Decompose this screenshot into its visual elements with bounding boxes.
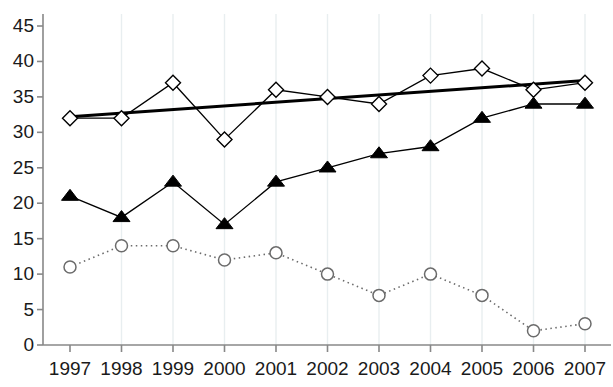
chart-plot-area xyxy=(0,0,613,387)
marker-diamond-2005 xyxy=(475,61,490,76)
marker-diamond-1997 xyxy=(63,111,78,126)
x-tick-label-1999: 1999 xyxy=(145,359,201,378)
marker-circle-2003 xyxy=(373,289,385,301)
y-tick-label-30: 30 xyxy=(0,122,34,141)
x-tick-label-1997: 1997 xyxy=(42,359,98,378)
y-tick-label-10: 10 xyxy=(0,264,34,283)
x-tick-label-2005: 2005 xyxy=(454,359,510,378)
chart-container: 051015202530354045 199719981999200020012… xyxy=(0,0,613,387)
marker-circle-2000 xyxy=(219,254,231,266)
y-tick-label-40: 40 xyxy=(0,51,34,70)
marker-triangle-2004 xyxy=(422,140,439,151)
x-tick-label-2004: 2004 xyxy=(403,359,459,378)
marker-triangle-1998 xyxy=(113,211,130,222)
y-tick-label-5: 5 xyxy=(0,300,34,319)
axes-group xyxy=(37,14,611,352)
x-tick-label-2007: 2007 xyxy=(557,359,613,378)
marker-circle-2006 xyxy=(528,325,540,337)
marker-triangle-1999 xyxy=(165,175,182,186)
marker-circle-2001 xyxy=(270,247,282,259)
marker-triangle-2006 xyxy=(525,97,542,108)
x-tick-label-2001: 2001 xyxy=(248,359,304,378)
marker-circle-1997 xyxy=(64,261,76,273)
x-tick-label-2002: 2002 xyxy=(300,359,356,378)
marker-circle-2007 xyxy=(579,318,591,330)
x-tick-label-1998: 1998 xyxy=(94,359,150,378)
x-tick-label-2006: 2006 xyxy=(506,359,562,378)
y-tick-label-0: 0 xyxy=(0,335,34,354)
y-tick-label-15: 15 xyxy=(0,229,34,248)
marker-circle-2002 xyxy=(322,268,334,280)
marker-circle-1999 xyxy=(167,240,179,252)
y-tick-label-35: 35 xyxy=(0,87,34,106)
x-tick-label-2000: 2000 xyxy=(197,359,253,378)
marker-diamond-2002 xyxy=(320,89,335,104)
y-tick-label-20: 20 xyxy=(0,193,34,212)
x-tick-label-2003: 2003 xyxy=(351,359,407,378)
marker-triangle-2007 xyxy=(577,97,594,108)
gridlines-group xyxy=(122,14,586,345)
y-tick-label-45: 45 xyxy=(0,16,34,35)
marker-triangle-1997 xyxy=(62,189,79,200)
marker-diamond-2007 xyxy=(578,75,593,90)
y-tick-label-25: 25 xyxy=(0,158,34,177)
marker-circle-2004 xyxy=(425,268,437,280)
marker-diamond-2003 xyxy=(372,96,387,111)
marker-circle-1998 xyxy=(116,240,128,252)
marker-diamond-2004 xyxy=(423,68,438,83)
marker-circle-2005 xyxy=(476,289,488,301)
